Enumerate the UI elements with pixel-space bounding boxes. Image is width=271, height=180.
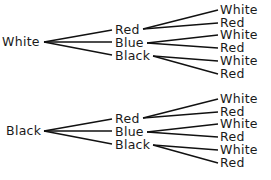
tree-2-leaf: Red (220, 156, 245, 169)
tree-1-leaf: Red (220, 67, 245, 80)
tree-2-branch-black: Black (115, 138, 150, 151)
tree-1-root-label: White (2, 35, 40, 48)
tree-1-branch-black: Black (115, 49, 150, 62)
tree-2-root-label: Black (6, 124, 41, 137)
